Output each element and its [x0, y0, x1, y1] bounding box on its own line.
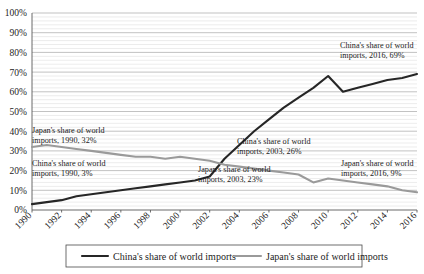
chart-legend: China's share of world importsJapan's sh…: [66, 245, 388, 267]
x-axis-tick-label: 2012: [339, 210, 360, 231]
y-axis-tick-label: 80%: [10, 48, 28, 58]
x-axis-tick-label: 2016: [398, 210, 419, 231]
annotation-china-2003: China's share of worldimports, 2003, 26%: [237, 137, 311, 156]
annotation-line-2: imports, 2003, 23%: [198, 175, 263, 184]
x-axis-tick-label: 2004: [220, 210, 241, 231]
annotation-line-1: China's share of world: [237, 137, 311, 146]
chart-canvas: 0%10%20%30%40%50%60%70%80%90%100% 199019…: [0, 0, 424, 274]
annotation-line-2: imports, 2016, 69%: [340, 51, 405, 60]
annotation-china-2016: China's share of worldimports, 2016, 69%: [340, 41, 414, 60]
x-axis-tick-label: 2000: [161, 210, 182, 231]
x-axis-tick-labels: 1990199219941996199820002002200420062008…: [13, 210, 419, 231]
x-axis-tick-label: 2010: [309, 210, 330, 231]
annotation-line-1: China's share of world: [32, 159, 106, 168]
annotation-japan-1990: Japan's share of worldimports, 1990, 32%: [32, 126, 105, 145]
annotation-line-2: imports, 2016, 9%: [341, 169, 402, 178]
x-axis-tick-label: 2008: [279, 210, 300, 231]
x-axis-tick-label: 1998: [131, 210, 152, 231]
legend-label: Japan's share of world imports: [266, 251, 388, 262]
line-chart: 0%10%20%30%40%50%60%70%80%90%100% 199019…: [0, 0, 424, 274]
x-axis-tick-label: 2002: [191, 210, 212, 231]
y-axis-tick-label: 60%: [10, 87, 28, 97]
annotation-line-1: Japan's share of world: [198, 165, 271, 174]
x-axis-tick-label: 1994: [72, 210, 93, 231]
x-axis-tick-label: 2014: [368, 210, 389, 231]
x-axis-tick-label: 2006: [250, 210, 271, 231]
y-axis-tick-label: 90%: [10, 28, 28, 38]
annotation-line-2: imports, 2003, 26%: [237, 147, 302, 156]
annotation-line-1: Japan's share of world: [341, 159, 414, 168]
y-axis-tick-label: 30%: [10, 146, 28, 156]
x-axis-tick-label: 1996: [102, 210, 123, 231]
legend-label: China's share of world imports: [113, 251, 236, 262]
annotation-japan-2003: Japan's share of worldimports, 2003, 23%: [198, 165, 271, 184]
x-axis-tick-label: 1992: [43, 210, 64, 231]
annotation-line-1: Japan's share of world: [32, 126, 105, 135]
y-axis-tick-label: 20%: [10, 166, 28, 176]
y-axis-tick-label: 100%: [5, 8, 27, 18]
y-axis-tick-label: 70%: [10, 68, 28, 78]
y-axis-tick-label: 50%: [10, 107, 28, 117]
annotation-line-2: imports, 1990, 3%: [32, 169, 93, 178]
y-axis-tick-labels: 0%10%20%30%40%50%60%70%80%90%100%: [5, 8, 27, 215]
y-axis-tick-label: 10%: [10, 186, 28, 196]
y-axis-tick-label: 40%: [10, 127, 28, 137]
annotation-line-2: imports, 1990, 32%: [32, 136, 97, 145]
annotation-line-1: China's share of world: [340, 41, 414, 50]
